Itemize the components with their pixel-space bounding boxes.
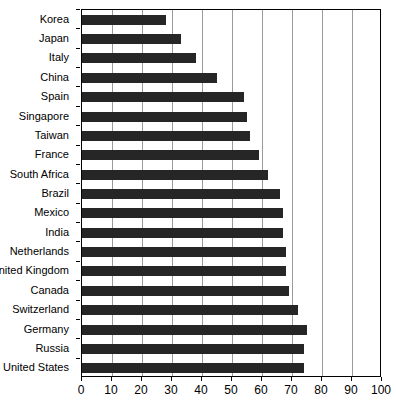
category-label: Russia xyxy=(35,341,69,355)
bar xyxy=(82,53,196,63)
category-tick xyxy=(76,28,80,29)
value-tick xyxy=(231,377,232,381)
category-tick xyxy=(76,48,80,49)
category-label: India xyxy=(45,225,69,239)
value-tick xyxy=(81,377,82,381)
gridline xyxy=(322,10,323,376)
category-tick xyxy=(76,241,80,242)
value-tick xyxy=(291,377,292,381)
category-tick xyxy=(76,319,80,320)
category-label: Singapore xyxy=(19,109,69,123)
category-label: Taiwan xyxy=(35,128,69,142)
bar xyxy=(82,131,250,141)
bar xyxy=(82,363,304,373)
bar xyxy=(82,305,298,315)
bar xyxy=(82,15,166,25)
category-axis: KoreaJapanItalyChinaSpainSingaporeTaiwan… xyxy=(0,9,76,377)
bar xyxy=(82,73,217,83)
chart-title xyxy=(0,0,388,3)
category-tick xyxy=(76,125,80,126)
category-tick xyxy=(76,145,80,146)
category-label: Spain xyxy=(41,89,69,103)
bar xyxy=(82,344,304,354)
gridline xyxy=(292,10,293,376)
bar xyxy=(82,189,280,199)
value-tick xyxy=(111,377,112,381)
category-tick xyxy=(76,164,80,165)
category-tick xyxy=(76,338,80,339)
value-axis-ticks xyxy=(81,377,381,382)
category-label: Korea xyxy=(40,12,69,26)
category-tick xyxy=(76,300,80,301)
plot-area xyxy=(81,9,381,377)
category-tick xyxy=(76,203,80,204)
gridline xyxy=(352,10,353,376)
bar xyxy=(82,266,286,276)
category-label: Brazil xyxy=(41,186,69,200)
category-label: France xyxy=(35,147,69,161)
bar xyxy=(82,247,286,257)
bar xyxy=(82,208,283,218)
value-tick xyxy=(321,377,322,381)
category-tick xyxy=(76,183,80,184)
category-tick xyxy=(76,261,80,262)
category-tick xyxy=(76,9,80,10)
value-axis-labels: 0102030405060708090100 xyxy=(81,383,381,399)
value-label: 100 xyxy=(361,383,396,397)
category-tick xyxy=(76,280,80,281)
category-tick xyxy=(76,106,80,107)
category-label: Switzerland xyxy=(12,302,69,316)
category-label: Germany xyxy=(24,322,69,336)
category-label: Japan xyxy=(39,31,69,45)
category-label: Italy xyxy=(49,50,69,64)
value-tick xyxy=(381,377,382,381)
category-label: Canada xyxy=(30,283,69,297)
bar xyxy=(82,112,247,122)
category-label: South Africa xyxy=(10,167,69,181)
category-label: Netherlands xyxy=(10,244,69,258)
bar xyxy=(82,150,259,160)
value-tick xyxy=(351,377,352,381)
bar xyxy=(82,286,289,296)
category-label: Mexico xyxy=(34,205,69,219)
category-label: United Kingdom xyxy=(0,263,69,277)
category-tick xyxy=(76,67,80,68)
category-label: United States xyxy=(3,360,69,374)
bar xyxy=(82,92,244,102)
value-tick xyxy=(201,377,202,381)
bar xyxy=(82,170,268,180)
category-tick xyxy=(76,86,80,87)
value-tick xyxy=(171,377,172,381)
category-tick xyxy=(76,222,80,223)
category-tick xyxy=(76,358,80,359)
bar xyxy=(82,325,307,335)
bar xyxy=(82,34,181,44)
value-tick xyxy=(141,377,142,381)
bar xyxy=(82,228,283,238)
category-label: China xyxy=(40,70,69,84)
value-tick xyxy=(261,377,262,381)
